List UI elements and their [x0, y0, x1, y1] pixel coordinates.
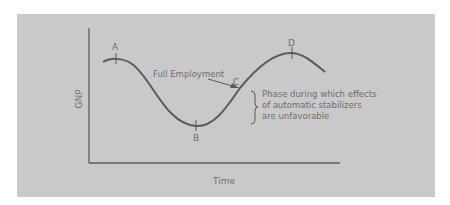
point-a-label: A — [112, 42, 118, 52]
point-c-label: C — [233, 77, 239, 87]
business-cycle-diagram — [0, 0, 450, 205]
x-axis-label: Time — [213, 176, 235, 186]
note-line-1: Phase during which effects — [262, 89, 376, 100]
brace-icon — [251, 91, 258, 124]
y-axis-label: GNP — [74, 89, 84, 108]
point-d-label: D — [288, 38, 295, 48]
point-b-label: B — [193, 133, 199, 143]
note-line-3: are unfavorable — [262, 111, 376, 122]
stabilizer-phase-note: Phase during which effects of automatic … — [262, 89, 376, 122]
note-line-2: of automatic stabilizers — [262, 100, 376, 111]
full-employment-label: Full Employment — [153, 69, 224, 79]
